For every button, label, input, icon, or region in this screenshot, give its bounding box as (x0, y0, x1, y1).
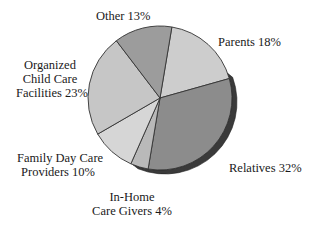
label-organized-child-care: Organized Child Care Facilities 23% (16, 58, 84, 100)
pie-slices (88, 26, 232, 170)
label-family-day-care: Family Day Care Providers 10% (17, 151, 99, 179)
label-relatives: Relatives 32% (229, 161, 302, 175)
label-other: Other 13% (96, 9, 151, 23)
label-parents: Parents 18% (218, 35, 281, 49)
label-in-home-care: In-Home Care Givers 4% (92, 190, 172, 218)
